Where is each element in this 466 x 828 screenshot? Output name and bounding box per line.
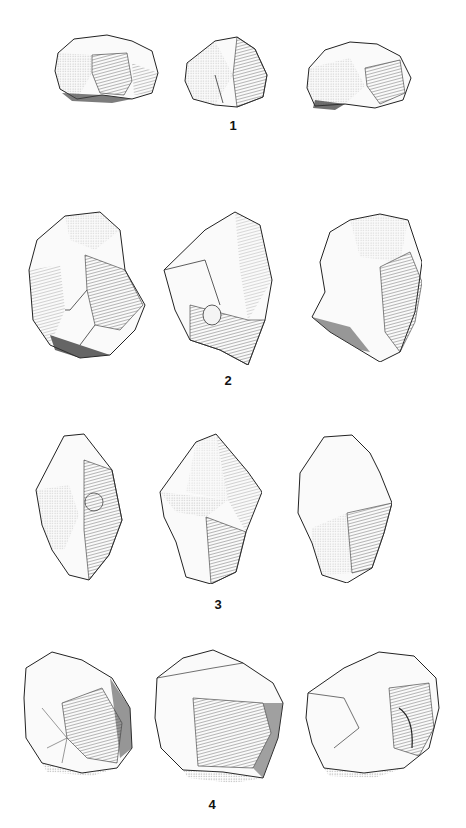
stone-core-drawing	[160, 210, 278, 365]
illustration-plate: 1 2	[0, 0, 466, 828]
stone-core-drawing	[25, 210, 147, 360]
core-2-view-b	[160, 210, 278, 365]
core-2-view-a	[25, 210, 147, 360]
core-2-view-c	[310, 212, 422, 362]
stone-core-drawing	[292, 433, 392, 583]
core-1-view-b	[175, 35, 275, 110]
core-4-view-a	[22, 648, 134, 776]
figure-number-2: 2	[224, 373, 231, 388]
stone-core-drawing	[304, 648, 441, 778]
core-4-view-b	[153, 648, 288, 783]
stone-core-drawing	[153, 648, 288, 783]
figure-number-3: 3	[214, 597, 221, 612]
stone-core-drawing	[310, 212, 422, 362]
stone-core-drawing	[175, 35, 275, 110]
figure-number-4: 4	[208, 797, 215, 812]
stone-core-drawing	[305, 38, 415, 111]
core-3-view-a	[34, 430, 124, 582]
core-3-view-c	[292, 433, 392, 583]
stone-core-drawing	[52, 33, 162, 105]
stone-core-drawing	[22, 648, 134, 776]
core-3-view-b	[156, 432, 262, 584]
core-1-view-a	[52, 33, 162, 105]
core-1-view-c	[305, 38, 415, 111]
figure-number-1: 1	[229, 118, 236, 133]
stone-core-drawing	[156, 432, 262, 584]
core-4-view-c	[304, 648, 441, 778]
stone-core-drawing	[34, 430, 124, 582]
